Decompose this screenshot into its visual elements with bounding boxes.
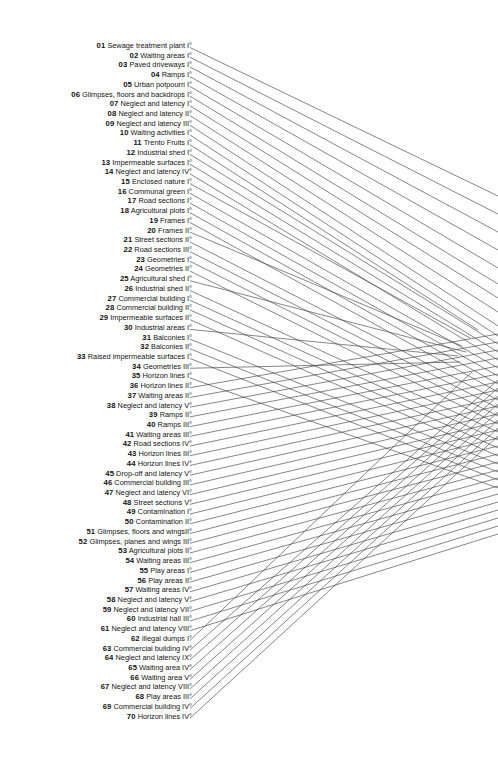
legend-item-label: Industrial shed II° xyxy=(135,284,192,293)
legend-item-number: 11 xyxy=(133,138,141,147)
leader-line xyxy=(190,203,498,376)
leader-line xyxy=(190,388,498,660)
legend-item: 35 Horizon lines I° xyxy=(0,371,196,381)
legend-item-label: Play areas II° xyxy=(148,576,192,585)
legend-item-number: 23 xyxy=(136,255,145,264)
legend-item: 25 Agricultural shed I° xyxy=(0,274,196,284)
leader-line xyxy=(190,430,498,504)
leader-line xyxy=(190,232,462,346)
legend-item: 09 Neglect and latency III° xyxy=(0,119,196,129)
legend-item-number: 10 xyxy=(120,128,129,137)
legend-item: 07 Neglect and latency I° xyxy=(0,99,196,109)
leader-line xyxy=(190,398,498,465)
legend-item: 18 Agricultural plots I° xyxy=(0,206,196,216)
legend-item: 11 Trento Fruits I° xyxy=(0,138,196,148)
leader-line xyxy=(190,362,460,368)
legend-item-number: 25 xyxy=(120,274,129,283)
legend-item-label: Neglect and latency VI° xyxy=(116,488,192,497)
legend-item-number: 65 xyxy=(128,663,137,672)
legend-item: 01 Sewage treatment plant I° xyxy=(0,41,196,51)
leader-line xyxy=(190,462,498,543)
leader-line xyxy=(190,378,498,488)
leader-line xyxy=(190,135,498,336)
leader-line xyxy=(190,428,498,708)
legend-item: 20 Frames II° xyxy=(0,226,196,236)
legend-item-label: Neglect and latency VIII° xyxy=(111,624,192,633)
leader-line xyxy=(190,96,498,284)
leader-line xyxy=(190,48,498,197)
legend-item-number: 48 xyxy=(123,498,132,507)
legend-item: 57 Waiting areas IV° xyxy=(0,585,196,595)
legend-item: 14 Neglect and latency IV° xyxy=(0,167,196,177)
legend-item-number: 44 xyxy=(127,459,136,468)
leader-line xyxy=(190,358,498,417)
legend-item-number: 61 xyxy=(101,624,110,633)
legend-item: 56 Play areas II° xyxy=(0,576,196,586)
legend-item-label: Commercial building I° xyxy=(118,294,192,303)
legend-item-number: 19 xyxy=(149,216,158,225)
leader-line xyxy=(190,414,498,485)
legend-item: 47 Neglect and latency VI° xyxy=(0,488,196,498)
leader-line xyxy=(190,374,498,436)
legend-item-number: 45 xyxy=(105,469,114,478)
legend-item-label: Street sections V° xyxy=(134,498,192,507)
legend-item: 23 Geometries I° xyxy=(0,255,196,265)
legend-item-label: Agricultural shed I° xyxy=(130,274,192,283)
leader-line xyxy=(190,412,498,689)
leader-line xyxy=(190,382,498,446)
legend-item-number: 59 xyxy=(103,605,112,614)
legend-item: 33 Raised impermeable surfaces I° xyxy=(0,352,196,362)
legend-item: 62 Illegal dumps I° xyxy=(0,634,196,644)
legend-item-number: 58 xyxy=(107,595,116,604)
leader-line xyxy=(190,502,498,592)
legend-item-label: Urban potpourri I° xyxy=(134,80,192,89)
leader-line xyxy=(190,390,498,456)
legend-item-label: Horizon lines III° xyxy=(138,449,192,458)
legend-item-label: Neglect and latency IX° xyxy=(116,653,192,662)
legend-item: 66 Waiting area V° xyxy=(0,673,196,683)
legend-item-number: 36 xyxy=(130,381,139,390)
legend-item-label: Communal green I° xyxy=(129,187,192,196)
leader-line xyxy=(190,404,498,679)
legend-item-label: Commercial building IV° xyxy=(114,644,193,653)
leader-line xyxy=(190,436,498,718)
legend-item-number: 67 xyxy=(101,682,110,691)
legend-item-number: 38 xyxy=(107,401,116,410)
legend-item-number: 63 xyxy=(103,644,112,653)
legend-item: 30 Industrial areas I° xyxy=(0,323,196,333)
legend-item-label: Balconies I° xyxy=(153,333,192,342)
legend-item-label: Frames II° xyxy=(158,226,192,235)
leader-line xyxy=(190,359,498,480)
legend-item: 38 Neglect and latency V° xyxy=(0,401,196,411)
legend-item-label: Industrial shed I° xyxy=(137,148,192,157)
legend-item-label: Geometries II° xyxy=(145,264,192,273)
leader-line xyxy=(190,116,498,312)
legend-item: 50 Contamination II° xyxy=(0,517,196,527)
legend-item-label: Sewage treatment plant I° xyxy=(107,41,192,50)
legend-item-number: 68 xyxy=(135,692,144,701)
legend-item: 19 Frames I° xyxy=(0,216,196,226)
leader-line xyxy=(190,252,498,408)
legend-item: 54 Waiting areas III° xyxy=(0,556,196,566)
legend-item-number: 50 xyxy=(125,517,134,526)
leader-line xyxy=(190,372,472,640)
legend-item-number: 41 xyxy=(125,430,134,439)
legend-item-number: 37 xyxy=(128,391,137,400)
leader-line xyxy=(190,310,498,448)
leader-line xyxy=(190,320,498,456)
legend-item-number: 70 xyxy=(127,712,136,721)
legend-item: 46 Commercial building III° xyxy=(0,478,196,488)
legend-item-label: Horizon lines IV° xyxy=(138,459,192,468)
legend-item-label: Paved driveways I° xyxy=(129,60,192,69)
legend-item: 24 Geometries II° xyxy=(0,264,196,274)
legend-item-label: Raised impermeable surfaces I° xyxy=(88,352,192,361)
leader-line xyxy=(190,518,498,611)
legend-item-number: 05 xyxy=(123,80,132,89)
leader-line xyxy=(190,494,498,582)
legend-item: 22 Road sections III° xyxy=(0,245,196,255)
legend-item-number: 49 xyxy=(127,507,136,516)
leader-line xyxy=(190,125,498,326)
leader-line xyxy=(190,164,498,352)
leader-line xyxy=(190,342,498,397)
legend-item: 69 Commercial building IV° xyxy=(0,702,196,712)
